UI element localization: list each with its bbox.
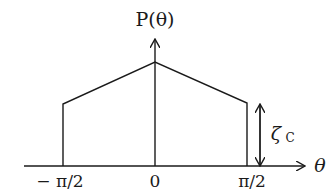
y-axis-label: P(θ)	[135, 8, 174, 30]
zeta-symbol: ζ	[271, 122, 283, 144]
tick-label-pi-half: π/2	[238, 171, 266, 191]
x-axis-label: θ	[314, 154, 326, 176]
tick-label-zero: 0	[150, 171, 161, 191]
distribution-diagram: P(θ) θ − π/2 0 π/2 ζ C	[0, 0, 334, 191]
zeta-subscript: C	[285, 131, 294, 145]
tick-label-neg-pi-half: − π/2	[36, 171, 83, 191]
